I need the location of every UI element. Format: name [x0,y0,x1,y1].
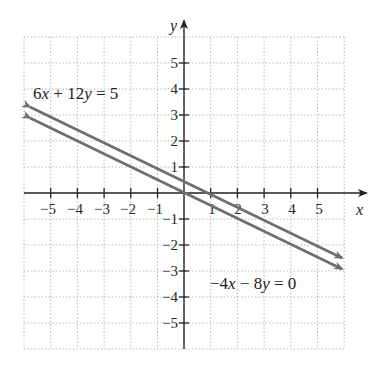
x-tick-label: −3 [94,201,110,217]
x-tick-label: −5 [40,201,56,217]
y-tick-label: −5 [162,315,178,331]
y-tick-label: −2 [162,237,178,253]
linear-equations-graph: −5 −4 −3 −2 −1 1 2 3 4 5 5 4 3 2 1 −1 −2… [0,0,384,373]
equation-label-2: −4x − 8y = 0 [210,274,296,293]
x-tick-label: −4 [67,201,83,217]
line-6x-plus-12y-eq-5 [30,107,342,258]
x-axis-label: x [355,201,363,218]
x-tick-labels: −5 −4 −3 −2 −1 1 2 3 4 5 [40,201,323,217]
y-tick-label: −4 [162,289,178,305]
y-tick-label: 4 [171,81,179,97]
x-tick-label: 3 [261,201,269,217]
y-axis-label: y [168,17,178,35]
x-tick-label: −1 [147,201,163,217]
y-tick-label: −1 [162,211,178,227]
y-tick-label: 5 [171,55,179,71]
x-tick-label: 4 [288,201,296,217]
x-tick-label: −2 [120,201,136,217]
equation-label-1: 6x + 12y = 5 [33,84,118,103]
y-tick-label: 1 [171,159,179,175]
y-tick-label: 2 [171,133,179,149]
y-tick-label: 3 [171,107,179,123]
y-tick-label: −3 [162,263,178,279]
x-tick-label: 5 [315,201,323,217]
